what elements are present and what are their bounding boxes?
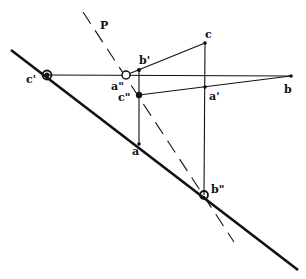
thick-trace-line xyxy=(11,50,298,270)
label-b-dprime: b" xyxy=(211,183,224,196)
point-a-dprime xyxy=(122,71,130,79)
point-b-prime xyxy=(137,68,141,72)
label-p: P xyxy=(100,19,108,32)
point-c xyxy=(203,41,207,45)
point-b xyxy=(289,74,293,78)
point-a-prime xyxy=(203,85,207,89)
label-c-prime: c' xyxy=(26,73,36,86)
vertical-c-to-b-dprime xyxy=(204,43,205,195)
label-b-prime: b' xyxy=(139,54,150,67)
label-a-prime: a' xyxy=(209,90,220,103)
line-c-prime-to-b xyxy=(47,75,291,76)
point-c-dprime xyxy=(136,92,142,98)
label-a: a xyxy=(132,145,139,158)
projection-diagram: P c b' a" c' c" a' b a b" xyxy=(0,0,306,279)
label-b: b xyxy=(284,83,292,96)
point-c-prime-core xyxy=(45,73,50,78)
label-c-dprime: c" xyxy=(118,91,130,104)
dashed-plane-line-p xyxy=(83,12,234,242)
label-c: c xyxy=(205,28,212,41)
